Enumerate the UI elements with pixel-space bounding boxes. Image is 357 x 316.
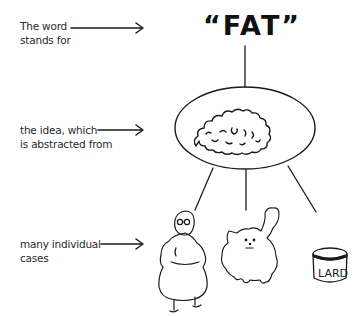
lard-label: LARD: [318, 267, 348, 280]
idea-bubble: [175, 87, 315, 169]
connector-line: [288, 166, 316, 212]
fat-cat-icon: [222, 208, 280, 283]
arrow-idea-icon: [98, 125, 143, 135]
diagram-art: LARD: [0, 0, 357, 316]
brain-cloud-icon: [194, 109, 270, 154]
connector-line: [195, 168, 213, 210]
fat-woman-icon: [159, 211, 207, 312]
arrow-word-icon: [71, 23, 143, 33]
arrow-cases-icon: [101, 239, 143, 249]
